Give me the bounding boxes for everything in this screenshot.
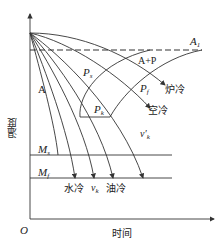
vk-label: vk [91, 183, 99, 195]
vk-prime-label: v′k [140, 129, 150, 141]
ps-label-main: P [83, 66, 90, 78]
cct-diagram [0, 0, 221, 243]
ms-label: Ms [38, 144, 50, 157]
pf-label-sub: f [147, 88, 149, 96]
pf-label: Pf [140, 83, 149, 96]
austenite-region-label: A [38, 84, 46, 95]
pf-label-main: P [140, 82, 147, 94]
mf-label-sub: f [47, 172, 49, 180]
mf-label-main: M [38, 166, 47, 178]
a1-label-sub: 1 [197, 41, 201, 49]
origin-label: O [20, 225, 28, 236]
a1-label-main: A [190, 35, 197, 47]
austenite-pearlite-region-label: A+P [138, 56, 156, 66]
ps-label-sub: s [90, 72, 93, 80]
pk-label: Pk [94, 104, 104, 117]
air-cooling-label: 空冷 [148, 106, 168, 116]
mf-label: Mf [38, 167, 49, 180]
water-cooling-label: 水冷 [64, 184, 84, 194]
vk-label-sub: k [95, 187, 98, 195]
x-axis-label: 时间 [112, 229, 132, 239]
furnace-cooling-label: 炉冷 [165, 85, 185, 95]
pk-label-main: P [94, 103, 101, 115]
vk-prime-label-sub: k [147, 133, 150, 141]
vk-prime-label-main: v′ [140, 128, 147, 139]
ps-label: Ps [83, 67, 92, 80]
a1-label: A1 [190, 36, 200, 49]
oil-cooling-label: 油冷 [106, 184, 126, 194]
water-cooling-curve [30, 33, 75, 178]
ms-label-sub: s [47, 149, 50, 157]
ms-label-main: M [38, 143, 47, 155]
pk-label-sub: k [101, 109, 104, 117]
y-axis-label: 温度 [8, 118, 18, 138]
